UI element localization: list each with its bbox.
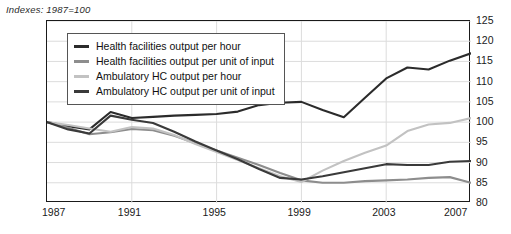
y-axis-tick-label: 90: [476, 156, 488, 168]
legend-item-label: Health facilities output per hour: [96, 39, 241, 54]
y-axis-tick-label: 125: [476, 14, 494, 26]
x-axis-tick-label: 2007: [444, 206, 467, 218]
plot-area: Health facilities output per hour Health…: [46, 20, 470, 202]
y-axis-tick-label: 115: [476, 54, 493, 66]
y-axis-tick-label: 80: [476, 196, 488, 208]
y-axis-tick-label: 120: [476, 34, 494, 46]
x-axis-tick-label: 1991: [118, 206, 141, 218]
legend-item-label: Health facilities output per unit of inp…: [96, 54, 274, 69]
legend-item-label: Ambulatory HC output per hour: [96, 69, 241, 84]
series-line: [47, 118, 471, 182]
legend-item: Ambulatory HC output per unit of input: [74, 84, 275, 99]
chart-legend: Health facilities output per hour Health…: [67, 33, 285, 105]
legend-item: Health facilities output per hour: [74, 39, 275, 54]
x-axis-tick-label: 1995: [203, 206, 226, 218]
legend-item-label: Ambulatory HC output per unit of input: [96, 84, 275, 99]
x-axis-tick-label: 2003: [372, 206, 395, 218]
y-axis-tick-label: 105: [476, 95, 494, 107]
chart-container: Indexes: 1987=100 Health facilities outp…: [0, 0, 511, 234]
y-axis-tick-label: 100: [476, 115, 494, 127]
y-axis-tick-label: 110: [476, 75, 493, 87]
legend-swatch-icon: [74, 90, 89, 93]
y-axis-tick-label: 85: [476, 176, 488, 188]
x-axis-tick-label: 1987: [42, 206, 65, 218]
chart-index-note: Indexes: 1987=100: [6, 4, 90, 15]
legend-swatch-icon: [74, 75, 89, 78]
legend-swatch-icon: [74, 60, 89, 63]
legend-item: Health facilities output per unit of inp…: [74, 54, 275, 69]
legend-swatch-icon: [74, 45, 89, 48]
legend-item: Ambulatory HC output per hour: [74, 69, 275, 84]
y-axis-tick-label: 95: [476, 135, 488, 147]
x-axis-tick-label: 1999: [287, 206, 310, 218]
series-line: [47, 116, 471, 180]
